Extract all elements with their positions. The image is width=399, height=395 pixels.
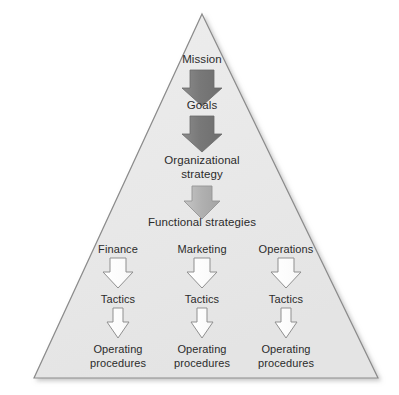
diagram-canvas [0, 0, 399, 395]
pyramid-strategy-diagram: Mission Goals Organizational strategy Fu… [0, 0, 399, 395]
